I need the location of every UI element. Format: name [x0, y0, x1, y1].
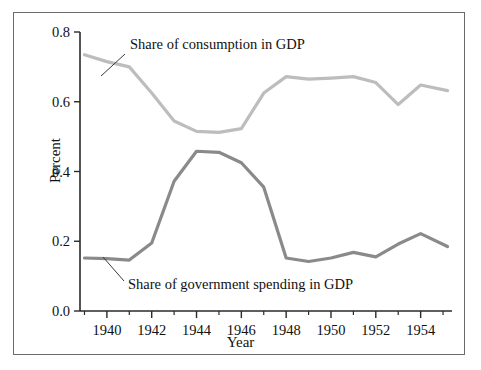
y-tick-label: 0.2 — [52, 233, 70, 249]
y-tick-label: 0.0 — [52, 303, 70, 319]
y-axis-title: Percent — [47, 101, 64, 221]
series-line-2 — [84, 151, 447, 261]
y-tick-label: 0.8 — [52, 24, 70, 40]
data-series — [84, 55, 447, 262]
x-axis-title: Year — [0, 334, 481, 351]
annotation-label-1: Share of consumption in GDP — [130, 36, 305, 52]
line-chart-plot: 0.00.20.40.60.81940194219441946194819501… — [0, 0, 481, 370]
series-line-1 — [84, 55, 447, 133]
chart-figure: 0.00.20.40.60.81940194219441946194819501… — [0, 0, 481, 370]
annotation-label-2: Share of government spending in GDP — [128, 276, 353, 292]
